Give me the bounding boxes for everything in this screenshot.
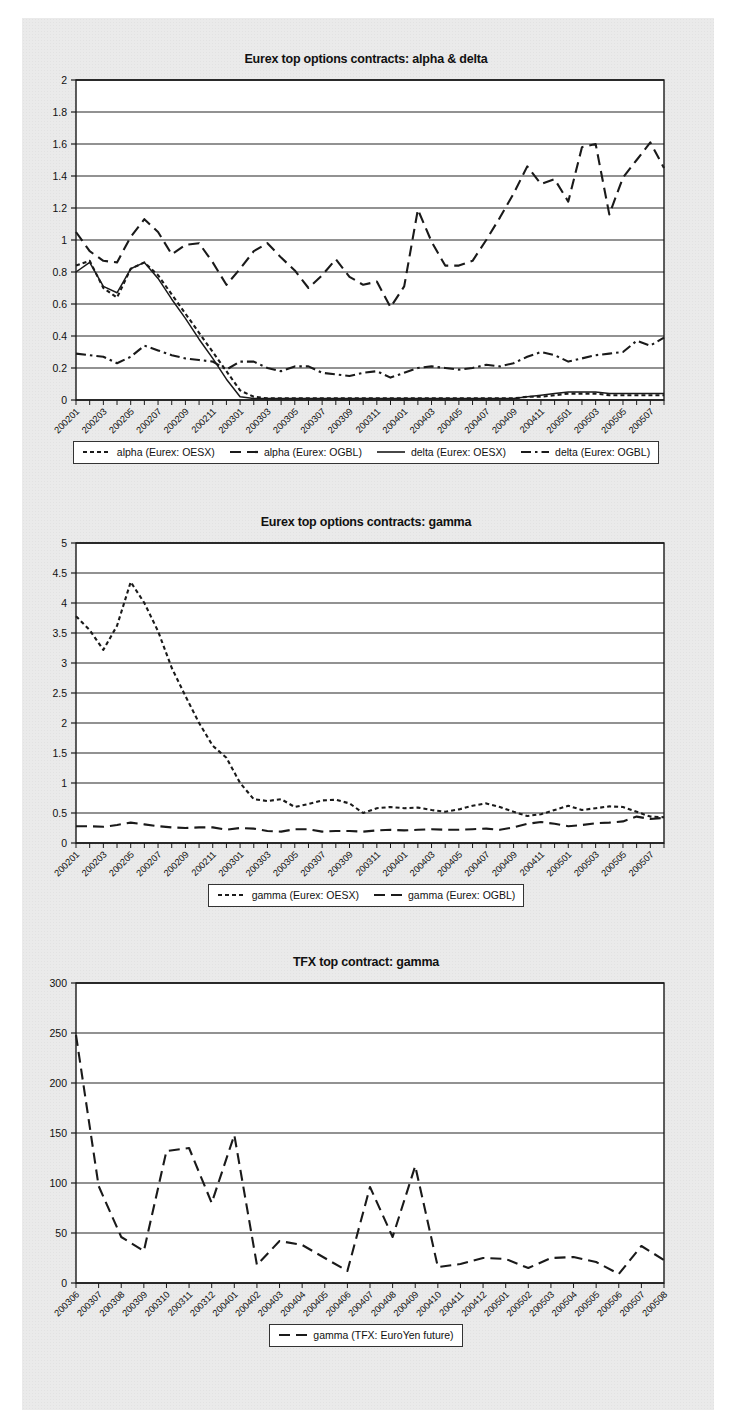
svg-text:1.6: 1.6: [52, 138, 67, 150]
legend-box: alpha (Eurex: OESX)alpha (Eurex: OGBL)de…: [73, 441, 659, 464]
legend-key-icon: [217, 890, 247, 900]
legend-box: gamma (Eurex: OESX)gamma (Eurex: OGBL): [208, 884, 525, 907]
svg-text:1.4: 1.4: [52, 170, 67, 182]
svg-text:2: 2: [61, 74, 67, 86]
svg-text:200410: 200410: [414, 1289, 443, 1318]
svg-text:200508: 200508: [640, 1289, 669, 1318]
legend-key-icon: [229, 447, 259, 457]
legend-key-icon: [278, 1330, 308, 1340]
svg-text:150: 150: [49, 1127, 67, 1139]
svg-text:1: 1: [61, 777, 67, 789]
svg-text:200507: 200507: [627, 406, 656, 435]
svg-text:200207: 200207: [134, 406, 163, 435]
svg-text:0.2: 0.2: [52, 362, 67, 374]
legend-item: delta (Eurex: OESX): [376, 446, 506, 458]
svg-text:200507: 200507: [627, 849, 656, 878]
svg-text:200411: 200411: [518, 849, 547, 878]
svg-text:0.4: 0.4: [52, 330, 67, 342]
svg-text:3: 3: [61, 657, 67, 669]
legend-item: gamma (TFX: EuroYen future): [278, 1329, 453, 1341]
legend-box: gamma (TFX: EuroYen future): [269, 1324, 462, 1347]
svg-text:200307: 200307: [299, 849, 328, 878]
svg-text:200303: 200303: [244, 849, 273, 878]
chart-svg: 00.20.40.60.811.21.41.61.822002012002032…: [0, 66, 732, 441]
legend-key-icon: [520, 447, 550, 457]
svg-text:3.5: 3.5: [52, 627, 67, 639]
svg-text:200205: 200205: [107, 406, 136, 435]
svg-text:200310: 200310: [143, 1289, 172, 1318]
legend-item: alpha (Eurex: OGBL): [229, 446, 362, 458]
svg-text:200401: 200401: [381, 849, 410, 878]
svg-text:2.5: 2.5: [52, 687, 67, 699]
legend-item: gamma (Eurex: OGBL): [373, 889, 515, 901]
svg-text:200211: 200211: [190, 406, 219, 435]
svg-text:200501: 200501: [545, 406, 574, 435]
svg-text:0: 0: [61, 394, 67, 406]
svg-text:0: 0: [61, 837, 67, 849]
legend-item-label: gamma (Eurex: OESX): [252, 889, 359, 901]
svg-text:200407: 200407: [463, 406, 492, 435]
svg-text:200203: 200203: [80, 406, 109, 435]
svg-text:200305: 200305: [271, 849, 300, 878]
legend-item-label: alpha (Eurex: OESX): [117, 446, 215, 458]
legend-item-label: gamma (TFX: EuroYen future): [313, 1329, 453, 1341]
svg-text:1: 1: [61, 234, 67, 246]
svg-text:0.5: 0.5: [52, 807, 67, 819]
svg-text:200201: 200201: [52, 406, 81, 435]
svg-text:0.6: 0.6: [52, 298, 67, 310]
svg-text:0.8: 0.8: [52, 266, 67, 278]
svg-text:200311: 200311: [354, 406, 383, 435]
svg-text:4.5: 4.5: [52, 567, 67, 579]
svg-text:300: 300: [49, 977, 67, 989]
svg-text:200211: 200211: [190, 849, 219, 878]
svg-text:0: 0: [61, 1277, 67, 1289]
legend-item-label: gamma (Eurex: OGBL): [408, 889, 515, 901]
svg-text:200503: 200503: [572, 406, 601, 435]
legend-key-icon: [376, 447, 406, 457]
svg-text:200301: 200301: [216, 849, 245, 878]
svg-text:200505: 200505: [599, 849, 628, 878]
svg-text:2: 2: [61, 717, 67, 729]
svg-text:200505: 200505: [599, 406, 628, 435]
svg-text:200201: 200201: [52, 849, 81, 878]
svg-text:200407: 200407: [463, 849, 492, 878]
svg-text:200209: 200209: [162, 406, 191, 435]
svg-text:200311: 200311: [354, 849, 383, 878]
svg-text:200409: 200409: [490, 849, 519, 878]
chart-legend: gamma (TFX: EuroYen future): [0, 1324, 732, 1347]
legend-item: gamma (Eurex: OESX): [217, 889, 359, 901]
svg-text:200305: 200305: [271, 406, 300, 435]
svg-text:4: 4: [61, 597, 67, 609]
page-root: Eurex top options contracts: alpha & del…: [0, 0, 732, 1428]
chart-legend: alpha (Eurex: OESX)alpha (Eurex: OGBL)de…: [0, 441, 732, 464]
chart-svg: 0501001502002503002003062003072003082003…: [0, 969, 732, 1324]
svg-text:200309: 200309: [326, 406, 355, 435]
legend-item-label: alpha (Eurex: OGBL): [264, 446, 362, 458]
svg-text:200207: 200207: [134, 849, 163, 878]
legend-item: delta (Eurex: OGBL): [520, 446, 650, 458]
svg-text:200307: 200307: [299, 406, 328, 435]
svg-text:200309: 200309: [326, 849, 355, 878]
svg-text:200401: 200401: [381, 406, 410, 435]
svg-text:5: 5: [61, 537, 67, 549]
chart-svg: 00.511.522.533.544.552002012002032002052…: [0, 529, 732, 884]
svg-text:200411: 200411: [518, 406, 547, 435]
svg-text:200409: 200409: [490, 406, 519, 435]
chart-legend: gamma (Eurex: OESX)gamma (Eurex: OGBL): [0, 884, 732, 907]
svg-text:200501: 200501: [545, 849, 574, 878]
svg-text:200: 200: [49, 1077, 67, 1089]
chart-eurex-alpha-delta: Eurex top options contracts: alpha & del…: [0, 52, 732, 464]
svg-text:200405: 200405: [435, 849, 464, 878]
svg-text:200403: 200403: [408, 849, 437, 878]
chart-tfx-gamma: TFX top contract: gamma 0501001502002503…: [0, 955, 732, 1347]
svg-text:1.5: 1.5: [52, 747, 67, 759]
legend-item-label: delta (Eurex: OGBL): [555, 446, 650, 458]
svg-text:1.2: 1.2: [52, 202, 67, 214]
svg-text:200203: 200203: [80, 849, 109, 878]
svg-text:100: 100: [49, 1177, 67, 1189]
chart-title: Eurex top options contracts: gamma: [0, 515, 732, 529]
chart-title: TFX top contract: gamma: [0, 955, 732, 969]
legend-key-icon: [373, 890, 403, 900]
svg-text:200503: 200503: [572, 849, 601, 878]
legend-item-label: delta (Eurex: OESX): [411, 446, 506, 458]
